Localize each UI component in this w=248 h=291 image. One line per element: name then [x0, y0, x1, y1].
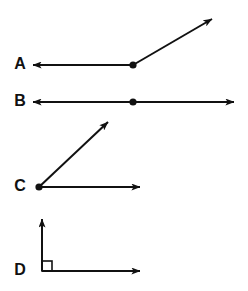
- angle-c-ray-upper-right: [39, 122, 108, 187]
- angle-group-d: D: [14, 219, 140, 278]
- angle-group-a: A: [14, 19, 212, 72]
- angle-label-b: B: [14, 92, 26, 109]
- vertex-dot-a: [129, 61, 136, 68]
- angle-group-b: B: [14, 92, 234, 109]
- angles-figure: ABCD: [0, 0, 248, 291]
- vertex-dot-c: [35, 183, 42, 190]
- vertex-dot-b: [129, 98, 136, 105]
- angle-label-a: A: [14, 55, 26, 72]
- angle-diagram: ABCD: [0, 0, 248, 291]
- right-angle-marker-icon: [42, 261, 52, 271]
- angle-label-c: C: [14, 177, 26, 194]
- angle-a-ray-upper-right: [133, 19, 212, 65]
- angle-group-c: C: [14, 122, 140, 194]
- angle-label-d: D: [14, 261, 26, 278]
